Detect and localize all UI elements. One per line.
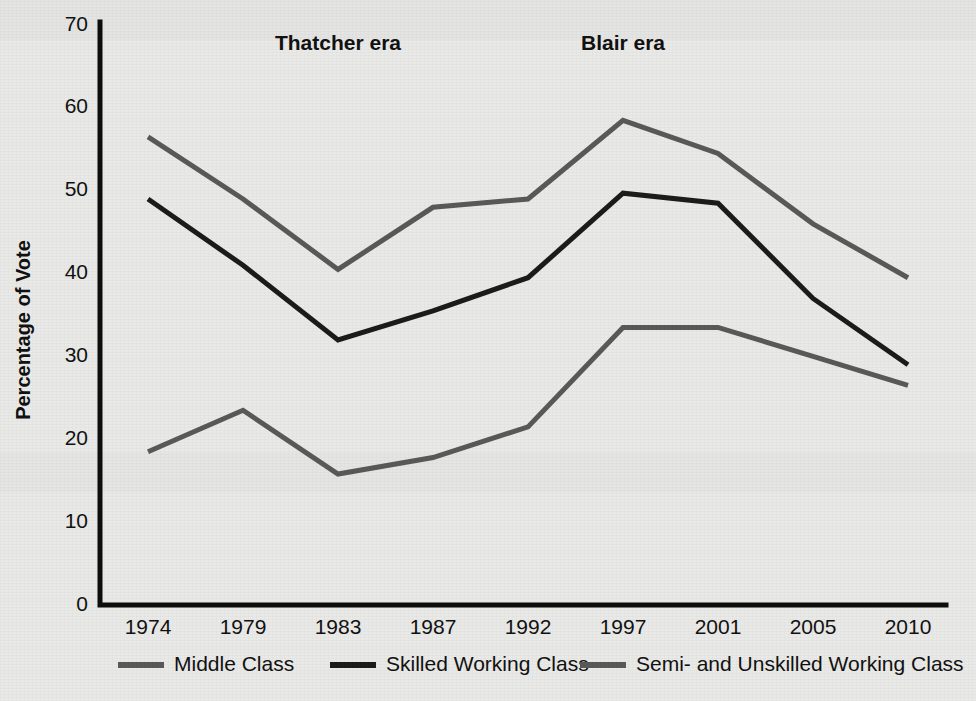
x-tick-label: 1987 <box>410 615 457 638</box>
chart-svg: 010203040506070 197419791983198719921997… <box>0 0 976 701</box>
x-tick-label: 1979 <box>220 615 267 638</box>
y-axis-tick-labels: 010203040506070 <box>65 12 88 615</box>
x-tick-label: 2010 <box>885 615 932 638</box>
x-tick-label: 1992 <box>505 615 552 638</box>
line-chart-figure: 010203040506070 197419791983198719921997… <box>0 0 976 701</box>
x-tick-label: 1997 <box>600 615 647 638</box>
y-tick-label: 0 <box>76 592 88 615</box>
legend-label: Semi- and Unskilled Working Class <box>636 652 964 675</box>
y-axis-title: Percentage of Vote <box>12 240 34 420</box>
y-tick-label: 20 <box>65 426 88 449</box>
y-tick-label: 70 <box>65 12 88 35</box>
series-line <box>148 120 908 277</box>
x-tick-label: 1974 <box>125 615 172 638</box>
annotation-label: Blair era <box>581 31 665 54</box>
y-tick-label: 30 <box>65 343 88 366</box>
legend-label: Skilled Working Class <box>386 652 589 675</box>
x-tick-label: 2001 <box>695 615 742 638</box>
data-series-group <box>148 120 908 474</box>
y-tick-label: 60 <box>65 94 88 117</box>
y-tick-label: 40 <box>65 260 88 283</box>
series-line <box>148 327 908 474</box>
y-tick-label: 10 <box>65 509 88 532</box>
x-axis-tick-labels: 197419791983198719921997200120052010 <box>125 615 932 638</box>
x-tick-label: 2005 <box>790 615 837 638</box>
axis-lines <box>100 22 946 605</box>
chart-legend: Middle ClassSkilled Working ClassSemi- a… <box>118 652 964 675</box>
y-tick-label: 50 <box>65 177 88 200</box>
series-line <box>148 193 908 365</box>
era-annotations: Thatcher eraBlair era <box>275 31 665 54</box>
legend-label: Middle Class <box>174 652 294 675</box>
annotation-label: Thatcher era <box>275 31 401 54</box>
x-tick-label: 1983 <box>315 615 362 638</box>
